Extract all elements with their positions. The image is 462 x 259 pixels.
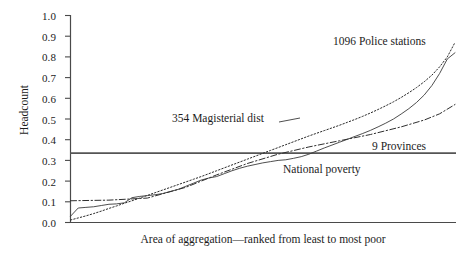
leader-line-magisterial (279, 118, 300, 122)
series-line-police-stations (71, 42, 456, 220)
series-line-magisterial-districts (71, 53, 456, 217)
chart-figure: Headcount 1.0 0.9 0.8 0.7 0.6 0.5 0.4 0.… (0, 0, 462, 259)
y-axis-ticks (65, 16, 70, 223)
plot-area (0, 0, 462, 259)
